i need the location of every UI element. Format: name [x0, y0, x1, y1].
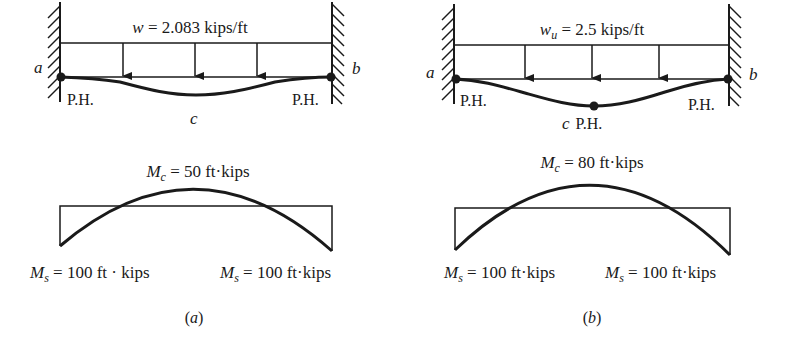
moment-diagram-b: Mc = 80 ft·kips Ms = 100 ft·kips Ms = 10… [443, 153, 730, 285]
moment-center-label: Mc = 80 ft·kips [539, 153, 643, 175]
panel-b: wu = 2.5 kips/ft a b P.H. P.H. cP.H. Mc … [426, 4, 758, 327]
support-label-left: a [34, 58, 43, 77]
fixed-support-left-icon [442, 4, 454, 104]
fixed-beam-diagram-b: wu = 2.5 kips/ft a b P.H. P.H. cP.H. [426, 4, 758, 133]
moment-left-label: Ms = 100 ft·kips [443, 263, 555, 285]
plastic-hinge-left-icon [57, 73, 66, 82]
plastic-hinge-figure: w = 2.083 kips/ft a b P.H. P.H. c Mc = 5… [0, 0, 793, 346]
midspan-label: cP.H. [562, 114, 602, 133]
moment-baseline-rect [60, 206, 332, 251]
moment-diagram-a: Mc = 50 ft·kips Ms = 100 ft · kips Ms = … [29, 162, 332, 285]
fixed-beam-diagram-a: w = 2.083 kips/ft a b P.H. P.H. c [34, 2, 361, 128]
moment-right-label: Ms = 100 ft·kips [604, 263, 716, 285]
support-label-right: b [749, 65, 758, 84]
load-label: wu = 2.5 kips/ft [540, 20, 645, 42]
hinge-label-right: P.H. [688, 96, 715, 113]
plastic-hinge-left-icon [452, 75, 461, 84]
moment-right-label: Ms = 100 ft·kips [219, 263, 331, 285]
fixed-support-right-icon [332, 2, 344, 104]
hinge-label-right: P.H. [292, 91, 319, 108]
fixed-support-right-icon [729, 4, 741, 106]
midspan-label: c [190, 109, 198, 128]
moment-curve [60, 189, 332, 251]
moment-center-label: Mc = 50 ft·kips [145, 162, 249, 184]
support-label-right: b [352, 59, 361, 78]
distributed-load-icon [455, 45, 729, 78]
support-label-left: a [426, 63, 435, 82]
plastic-hinge-center-icon [590, 102, 599, 111]
hinge-label-left: P.H. [67, 91, 94, 108]
plastic-hinge-right-icon [724, 75, 733, 84]
caption-a: (a) [185, 309, 204, 327]
moment-curve [455, 185, 730, 255]
panel-a: w = 2.083 kips/ft a b P.H. P.H. c Mc = 5… [29, 2, 361, 327]
hinge-label-left: P.H. [460, 92, 487, 109]
plastic-hinge-right-icon [327, 73, 336, 82]
fixed-support-left-icon [48, 2, 60, 102]
load-label: w = 2.083 kips/ft [132, 18, 248, 37]
moment-left-label: Ms = 100 ft · kips [29, 263, 150, 285]
distributed-load-icon [60, 43, 332, 76]
caption-b: (b) [583, 309, 602, 327]
